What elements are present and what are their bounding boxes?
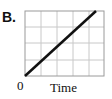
origin-label: 0 (17, 78, 24, 94)
x-axis-label: Time (50, 80, 77, 96)
